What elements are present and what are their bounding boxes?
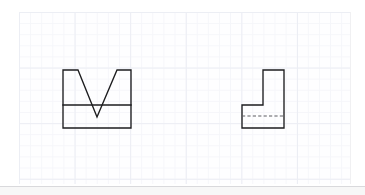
footer-strip [0, 187, 365, 195]
vee-block-outline [63, 70, 131, 128]
front-view-vee-block [63, 70, 131, 128]
l-block-outline [242, 70, 284, 128]
engineering-sketch-canvas [0, 0, 365, 195]
technical-drawing [0, 0, 365, 195]
side-view-l-block [242, 70, 284, 128]
